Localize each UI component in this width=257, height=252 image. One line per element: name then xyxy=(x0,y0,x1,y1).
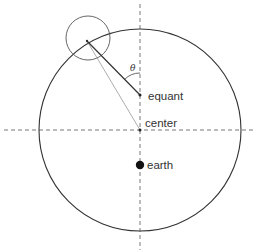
center-radius-line xyxy=(87,41,140,130)
equant-diagram: θ equant center earth xyxy=(0,0,257,252)
center-point xyxy=(139,129,142,132)
equant-label: equant xyxy=(148,90,184,102)
center-label: center xyxy=(145,117,177,129)
epicycle-anchor-point xyxy=(86,40,88,42)
equant-point xyxy=(139,94,142,97)
earth-label: earth xyxy=(147,159,173,171)
earth-point xyxy=(136,161,144,169)
angle-arc xyxy=(125,73,140,79)
angle-label: θ xyxy=(130,63,136,73)
epicycle-circle xyxy=(66,16,110,60)
